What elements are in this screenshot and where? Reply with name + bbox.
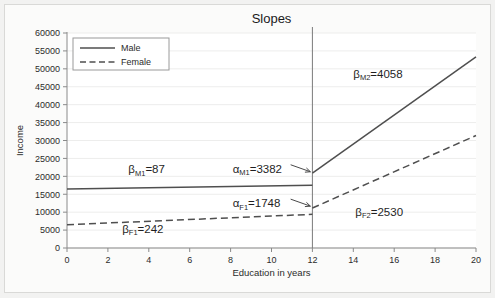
x-axis-title: Education in years (232, 267, 310, 278)
figure-canvas: 0500010000150002000025000300003500040000… (4, 4, 491, 293)
x-tick-label: 14 (348, 255, 358, 265)
x-tick-label: 12 (307, 255, 317, 265)
legend-label-male: Male (121, 43, 141, 53)
y-tick-label: 0 (55, 243, 60, 253)
y-axis: 0500010000150002000025000300003500040000… (35, 28, 67, 253)
y-tick-label: 50000 (35, 64, 60, 74)
chart-title: Slopes (252, 11, 292, 26)
x-tick-label: 16 (389, 255, 399, 265)
x-tick-label: 20 (471, 255, 481, 265)
y-tick-label: 40000 (35, 100, 60, 110)
x-tick-label: 8 (228, 255, 233, 265)
y-axis-title: Income (14, 125, 25, 156)
x-tick-label: 2 (105, 255, 110, 265)
x-tick-label: 4 (146, 255, 151, 265)
y-tick-label: 20000 (35, 172, 60, 182)
x-tick-label: 0 (64, 255, 69, 265)
y-tick-label: 45000 (35, 82, 60, 92)
y-tick-label: 55000 (35, 46, 60, 56)
x-tick-label: 18 (430, 255, 440, 265)
x-tick-label: 10 (266, 255, 276, 265)
x-tick-label: 6 (187, 255, 192, 265)
slopes-line-chart: 0500010000150002000025000300003500040000… (5, 5, 490, 292)
legend-label-female: Female (121, 57, 151, 67)
y-tick-label: 5000 (40, 225, 60, 235)
y-tick-label: 35000 (35, 118, 60, 128)
y-tick-label: 25000 (35, 154, 60, 164)
y-tick-label: 30000 (35, 136, 60, 146)
legend: MaleFemale (73, 38, 169, 70)
x-axis: 02468101214161820 (64, 248, 481, 265)
figure-container: 0500010000150002000025000300003500040000… (0, 0, 495, 298)
y-tick-label: 15000 (35, 190, 60, 200)
y-tick-label: 10000 (35, 207, 60, 217)
y-tick-label: 60000 (35, 28, 60, 38)
